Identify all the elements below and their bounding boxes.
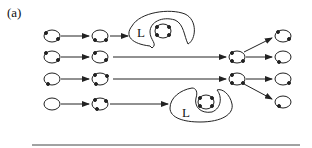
- node-r3c1: [44, 73, 60, 86]
- edge-arrow: [244, 38, 272, 52]
- node-r1c2: [92, 30, 108, 42]
- loop-bottom: [170, 88, 232, 122]
- loop-label-bottom: L: [182, 105, 190, 120]
- node-r2c2: [92, 51, 108, 63]
- node-r4c2: [92, 98, 108, 111]
- node-m1: [229, 51, 245, 63]
- edge-arrow: [244, 84, 272, 99]
- node-r3c2: [92, 73, 109, 86]
- node-o4: [275, 96, 291, 108]
- node-r2c1: [44, 51, 60, 63]
- node-r4c1: [44, 98, 60, 110]
- node-o3: [275, 73, 291, 85]
- node-m2: [229, 73, 245, 85]
- node-r1c1: [44, 30, 60, 42]
- diagram-canvas: L L: [0, 0, 312, 148]
- node-o1: [275, 30, 291, 42]
- loop-label-top: L: [137, 25, 145, 40]
- node-o2: [275, 51, 291, 64]
